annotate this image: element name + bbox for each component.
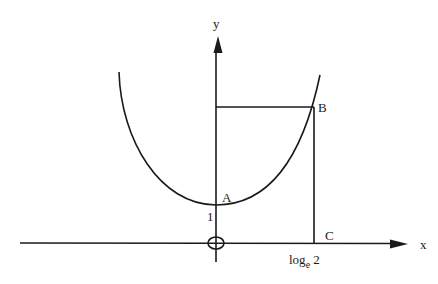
x-tick-label: loge 2 <box>289 253 320 266</box>
point-c-label: C <box>325 229 334 242</box>
y-axis-label: y <box>213 17 220 30</box>
point-b-label: B <box>318 101 327 114</box>
graph-canvas <box>0 0 438 284</box>
log-argument: 2 <box>313 252 320 267</box>
y-intercept-label: 1 <box>207 210 214 223</box>
curve <box>119 72 320 205</box>
log-text: log <box>289 252 306 267</box>
x-axis-arrow-icon <box>390 240 408 249</box>
point-a-label: A <box>222 191 231 204</box>
y-axis-arrow-icon <box>214 36 223 53</box>
x-axis-label: x <box>420 238 427 251</box>
log-base-subscript: e <box>306 259 310 270</box>
